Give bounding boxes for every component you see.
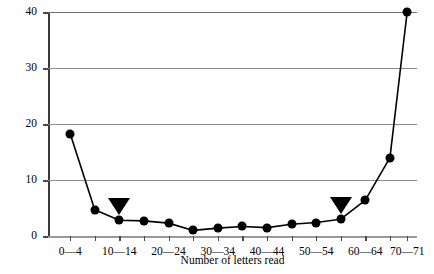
x-tick-12 bbox=[119, 236, 120, 241]
data-point bbox=[164, 219, 173, 228]
data-point bbox=[66, 129, 75, 138]
data-point bbox=[189, 226, 198, 235]
down-triangle-icon bbox=[108, 198, 130, 215]
x-tick-32 bbox=[218, 236, 219, 241]
x-tick-17 bbox=[144, 236, 145, 241]
data-point bbox=[312, 218, 321, 227]
y-tick-label-10: 10 bbox=[0, 174, 37, 186]
data-point bbox=[139, 216, 148, 225]
data-point bbox=[238, 222, 247, 231]
data-point bbox=[287, 220, 296, 229]
x-tick-22 bbox=[169, 236, 170, 241]
x-tick-27 bbox=[193, 236, 194, 241]
y-tick-0 bbox=[43, 236, 48, 238]
y-tick-label-30: 30 bbox=[0, 62, 37, 74]
data-point bbox=[336, 215, 345, 224]
x-tick-62 bbox=[365, 236, 366, 241]
data-point bbox=[213, 224, 222, 233]
x-tick-57 bbox=[341, 236, 342, 241]
x-axis-title: Number of letters read bbox=[48, 255, 417, 267]
x-tick-47 bbox=[292, 236, 293, 241]
x-tick-2 bbox=[70, 236, 71, 241]
plot-area bbox=[48, 12, 417, 236]
data-point bbox=[385, 153, 394, 162]
x-tick-42 bbox=[267, 236, 268, 241]
x-tick-52 bbox=[316, 236, 317, 241]
x-tick-7 bbox=[95, 236, 96, 241]
x-tick-70.5 bbox=[407, 236, 408, 241]
x-tick-67 bbox=[390, 236, 391, 241]
data-point bbox=[361, 196, 370, 205]
data-point bbox=[262, 223, 271, 232]
data-point bbox=[403, 8, 412, 17]
y-tick-label-20: 20 bbox=[0, 118, 37, 130]
x-axis-line bbox=[48, 236, 417, 238]
down-triangle-icon bbox=[330, 197, 352, 214]
x-tick-37 bbox=[242, 236, 243, 241]
y-tick-label-40: 40 bbox=[0, 6, 37, 18]
data-point bbox=[115, 216, 124, 225]
y-tick-label-0: 0 bbox=[0, 230, 37, 242]
data-point bbox=[90, 205, 99, 214]
chart-figure: Percentage of young children 0—410—1420—… bbox=[0, 0, 434, 274]
